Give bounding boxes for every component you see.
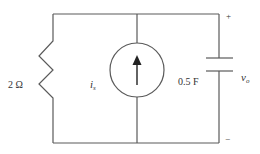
resistor-label: 2 Ω xyxy=(8,79,23,90)
output-voltage-label: vo xyxy=(241,71,250,85)
minus-terminal-label: − xyxy=(225,134,230,144)
circuit-diagram: 2 Ω is 0.5 F vo + − xyxy=(0,0,260,154)
current-arrow-head-icon xyxy=(133,55,142,65)
resistor-branch xyxy=(39,14,53,143)
current-source-label: is xyxy=(90,78,96,92)
plus-terminal-label: + xyxy=(226,11,231,21)
capacitor-label: 0.5 F xyxy=(178,76,199,87)
